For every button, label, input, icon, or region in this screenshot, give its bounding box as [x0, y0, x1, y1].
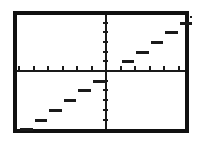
step-segment [136, 51, 149, 54]
step-segment [122, 60, 135, 63]
x-axis-tick [18, 66, 20, 71]
x-axis-tick [91, 66, 93, 71]
step-segment [151, 41, 164, 44]
step-segment [180, 22, 193, 25]
y-axis-tick [103, 22, 108, 24]
x-axis [17, 70, 185, 72]
step-segment [93, 80, 106, 83]
y-axis-tick [103, 60, 108, 62]
step-segment [64, 99, 77, 102]
x-axis-tick [149, 66, 151, 71]
x-axis-tick [120, 66, 122, 71]
x-axis-tick [33, 66, 35, 71]
y-axis-tick [103, 109, 108, 111]
x-axis-tick [163, 66, 165, 71]
y-axis-tick [103, 51, 108, 53]
y-axis-tick [103, 89, 108, 91]
y-axis-tick [103, 31, 108, 33]
y-axis-tick [103, 41, 108, 43]
step-segment [165, 31, 178, 34]
x-axis-tick [62, 66, 64, 71]
graph-plot-area[interactable] [17, 15, 185, 129]
y-axis-tick [103, 119, 108, 121]
x-axis-tick [134, 66, 136, 71]
x-axis-tick [178, 66, 180, 71]
calculator-screen-frame [13, 11, 189, 133]
x-axis-tick [47, 66, 49, 71]
step-segment [20, 128, 33, 131]
step-segment [35, 119, 48, 122]
cursor-pixel-marker [190, 16, 192, 18]
x-axis-tick [76, 66, 78, 71]
step-segment [49, 109, 62, 112]
screenshot-root [0, 0, 202, 145]
y-axis-tick [103, 99, 108, 101]
step-segment [78, 89, 91, 92]
